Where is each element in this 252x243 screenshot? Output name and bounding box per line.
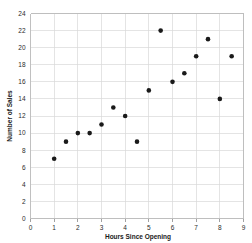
- x-tick-label: 1: [52, 224, 56, 231]
- data-point: [99, 122, 104, 127]
- x-tick-label: 9: [242, 224, 246, 231]
- x-tick-label: 8: [218, 224, 222, 231]
- x-tick-label: 4: [123, 224, 127, 231]
- y-tick-label: 22: [18, 27, 26, 34]
- data-point: [52, 156, 57, 161]
- x-tick-label: 3: [100, 224, 104, 231]
- y-tick-label: 18: [18, 61, 26, 68]
- y-tick-label: 24: [18, 10, 26, 17]
- data-point: [87, 131, 92, 136]
- x-axis-title: Hours Since Opening: [105, 233, 171, 241]
- data-point: [147, 88, 152, 93]
- data-point: [182, 71, 187, 76]
- data-point: [123, 114, 128, 119]
- data-point: [135, 139, 140, 144]
- data-point: [111, 105, 116, 110]
- y-tick-label: 12: [18, 112, 26, 119]
- x-tick-label: 5: [147, 224, 151, 231]
- y-tick-label: 6: [22, 164, 26, 171]
- data-point: [229, 54, 234, 59]
- y-tick-label: 2: [22, 198, 26, 205]
- y-tick-label: 14: [18, 95, 26, 102]
- y-tick-label: 0: [22, 215, 26, 222]
- data-point: [170, 80, 175, 85]
- data-point: [64, 139, 69, 144]
- y-tick-label: 8: [22, 147, 26, 154]
- data-point: [194, 54, 199, 59]
- x-tick-label: 6: [171, 224, 175, 231]
- x-tick-label: 7: [194, 224, 198, 231]
- chart-background: [0, 0, 252, 243]
- y-tick-label: 4: [22, 181, 26, 188]
- data-point: [206, 37, 211, 42]
- y-tick-label: 20: [18, 44, 26, 51]
- scatter-chart: 024681012141618202224 0123456789 Hours S…: [0, 0, 252, 243]
- y-axis-title: Number of Sales: [6, 90, 13, 142]
- y-tick-label: 16: [18, 78, 26, 85]
- data-point: [218, 97, 223, 102]
- x-tick-label: 2: [76, 224, 80, 231]
- x-tick-label: 0: [29, 224, 33, 231]
- chart-canvas: 024681012141618202224 0123456789 Hours S…: [0, 0, 252, 243]
- data-point: [158, 28, 163, 33]
- y-tick-label: 10: [18, 129, 26, 136]
- data-point: [76, 131, 81, 136]
